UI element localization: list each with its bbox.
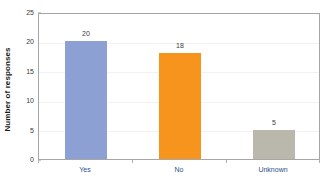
- bar-value-label: 18: [159, 42, 201, 50]
- x-tick-label-unknown: Unknown: [226, 165, 320, 175]
- y-tick-label: 20: [14, 38, 34, 46]
- y-tick-label: 25: [14, 9, 34, 17]
- bar-no[interactable]: [159, 53, 201, 159]
- x-tick-mark: [38, 160, 39, 163]
- y-axis-tick-labels: 0 5 10 15 20 25: [14, 13, 34, 160]
- y-tick-label: 5: [14, 127, 34, 135]
- y-tick-label: 15: [14, 68, 34, 76]
- x-tick-mark: [319, 160, 320, 163]
- x-tick-label-no: No: [132, 165, 226, 175]
- bar-group-unknown[interactable]: 5: [253, 14, 295, 159]
- y-axis-title: Number of responses: [0, 0, 14, 179]
- bar-group-yes[interactable]: 20: [65, 14, 107, 159]
- bar-unknown[interactable]: [253, 130, 295, 159]
- bar-group-no[interactable]: 18: [159, 14, 201, 159]
- x-axis-tick-marks: [38, 160, 320, 164]
- bars-layer: 20 18 5: [39, 14, 319, 159]
- y-tick-label: 10: [14, 97, 34, 105]
- bar-value-label: 20: [65, 30, 107, 38]
- x-tick-label-yes: Yes: [38, 165, 132, 175]
- bar-chart: Number of responses 0 5 10 15 20 25 20: [0, 0, 327, 179]
- bar-yes[interactable]: [65, 41, 107, 159]
- x-tick-mark: [226, 160, 227, 163]
- plot-area: 20 18 5: [38, 13, 320, 160]
- bar-value-label: 5: [253, 119, 295, 127]
- y-tick-label: 0: [14, 156, 34, 164]
- x-axis-tick-labels: Yes No Unknown: [38, 165, 320, 177]
- x-tick-mark: [132, 160, 133, 163]
